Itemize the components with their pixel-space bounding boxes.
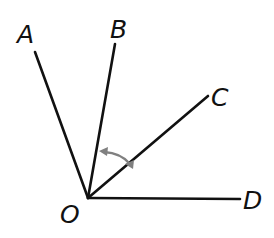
label-o: O: [60, 200, 80, 229]
arc-arrowhead-start-icon: [99, 147, 108, 156]
ray-ob: [88, 44, 115, 198]
label-a: A: [15, 20, 34, 49]
angle-boc-marker: [99, 147, 134, 169]
label-c: C: [211, 83, 229, 112]
angle-arc: [104, 152, 130, 164]
ray-oc: [88, 96, 208, 198]
ray-oa: [35, 52, 88, 198]
ray-od: [88, 198, 240, 199]
label-d: D: [243, 186, 262, 215]
angle-diagram: A B C D O: [0, 0, 274, 238]
label-b: B: [110, 15, 127, 44]
